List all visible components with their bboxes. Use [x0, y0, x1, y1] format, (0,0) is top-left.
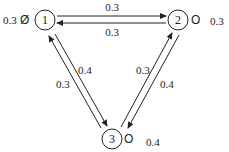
node-1-marker-icon: Ø	[20, 13, 29, 27]
node-3-label: 3	[109, 132, 115, 146]
edge-2-to-3-label: 0.4	[160, 78, 174, 90]
edge-3-to-1-label: 0.3	[56, 78, 70, 90]
node-1: 1	[35, 10, 55, 30]
node-1-self-value: 0.3	[3, 14, 17, 26]
node-3-marker-icon: O	[124, 132, 133, 146]
node-3: 3	[102, 129, 122, 149]
node-2-marker-icon: O	[191, 13, 200, 27]
node-2-label: 2	[175, 13, 181, 27]
node-3-self-value: 0.4	[146, 136, 160, 148]
edge-1-to-2-label: 0.3	[105, 1, 119, 13]
edge-3-to-2-label: 0.3	[136, 64, 150, 76]
node-2-self-value: 0.3	[210, 15, 224, 27]
node-2: 2	[168, 10, 188, 30]
edge-1-to-3-label: 0.4	[78, 64, 92, 76]
node-1-label: 1	[42, 13, 48, 27]
markov-diagram: 1 0.3 Ø 2 O 0.3 3 O 0.4 0.3 0.3 0.4 0.3 …	[0, 0, 229, 152]
edge-2-to-1-label: 0.3	[105, 26, 119, 38]
